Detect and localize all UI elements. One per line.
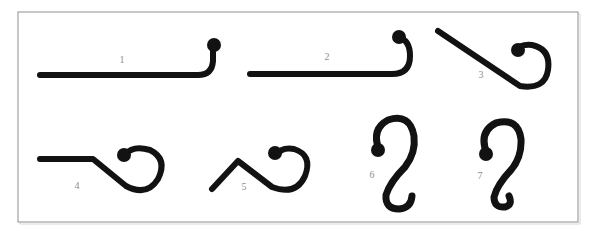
hook-shape-4-ball-tip <box>117 148 131 162</box>
hook-shape-6-ball-tip <box>371 143 385 157</box>
hook-shape-7-ball-tip <box>479 147 493 161</box>
hook-shape-label-7: 7 <box>477 170 482 181</box>
hook-shape-label-3: 3 <box>478 69 483 80</box>
hook-shape-label-1: 1 <box>119 54 124 65</box>
hook-shape-label-5: 5 <box>241 181 246 192</box>
hook-shapes-figure: 1234567 <box>0 0 596 233</box>
hook-shape-label-2: 2 <box>324 51 329 62</box>
hook-shape-label-4: 4 <box>74 180 79 191</box>
hook-shape-label-6: 6 <box>369 169 374 180</box>
hook-shape-1-ball-tip <box>207 38 221 52</box>
hook-shape-5-ball-tip <box>268 146 282 160</box>
figure-container: 1234567 <box>0 0 596 233</box>
hook-shape-3-ball-tip <box>511 43 525 57</box>
hook-shape-2-ball-tip <box>392 30 406 44</box>
